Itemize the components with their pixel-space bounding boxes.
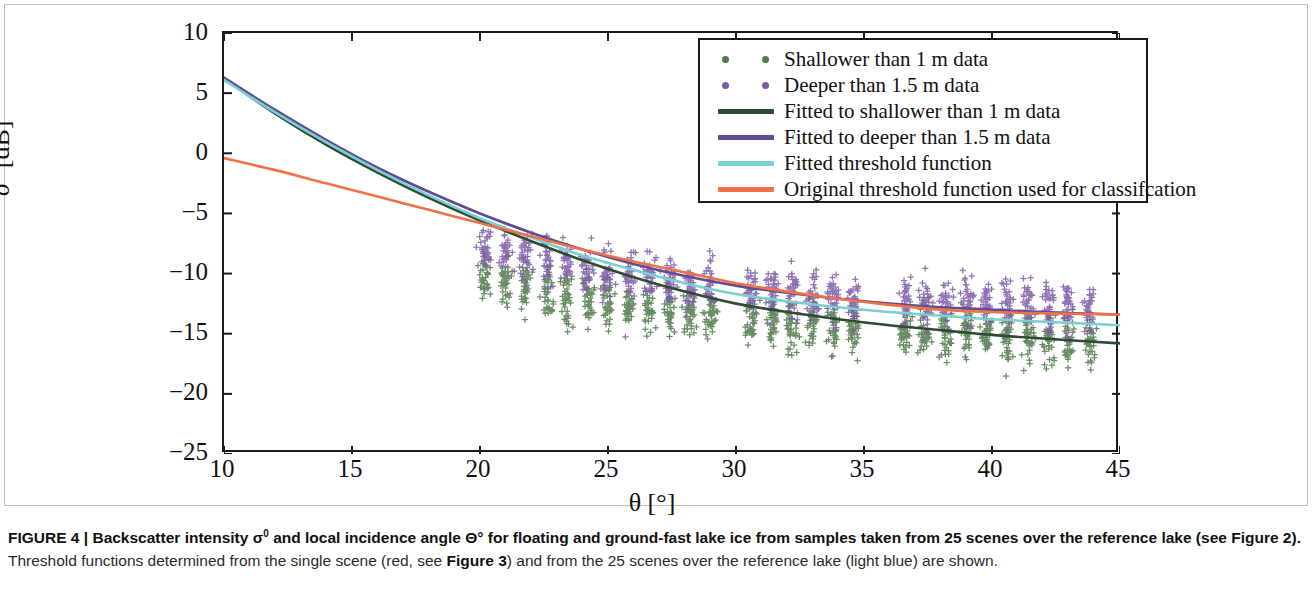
legend-item-shallow-data: Shallower than 1 m data (700, 46, 1146, 72)
x-tick-label-30: 30 (704, 456, 764, 481)
legend-item-deep-data: Deeper than 1.5 m data (700, 72, 1146, 98)
y-tick-label-m5: −5 (152, 199, 208, 224)
legend-marker-fitted-threshold-line (710, 153, 784, 173)
legend-item-fitted-threshold: Fitted threshold function (700, 150, 1146, 176)
y-tick-label-5: 5 (152, 79, 208, 104)
caption-body-1: Threshold functions determined from the … (8, 552, 447, 569)
y-tick-label-m10: −10 (152, 259, 208, 284)
y-tick-label-10: 10 (152, 19, 208, 44)
y-axis-label-sigma: σ (0, 183, 15, 196)
y-axis-label: σ0 [dB] (0, 121, 16, 197)
x-tick-label-15: 15 (320, 456, 380, 481)
legend-item-fit-deep: Fitted to deeper than 1.5 m data (700, 124, 1146, 150)
caption-lead: FIGURE 4 | Backscatter intensity σ (8, 529, 263, 546)
x-tick-label-20: 20 (448, 456, 508, 481)
caption-lead-continued: and local incidence angle Θ° for floatin… (269, 529, 1301, 546)
figure-caption: FIGURE 4 | Backscatter intensity σ0 and … (8, 522, 1306, 572)
legend-marker-fit-deep-line (710, 127, 784, 147)
legend-marker-original-threshold-line (710, 179, 784, 199)
y-tick-label-0: 0 (152, 139, 208, 164)
x-tick-label-25: 25 (576, 456, 636, 481)
legend-item-fit-shallow: Fitted to shallower than 1 m data (700, 98, 1146, 124)
legend-label-original-threshold: Original threshold function used for cla… (784, 179, 1196, 200)
caption-figure3-reference: Figure 3 (447, 552, 507, 569)
caption-body-2: ) and from the 25 scenes over the refere… (507, 552, 998, 569)
legend-item-original-threshold: Original threshold function used for cla… (700, 176, 1146, 202)
legend-marker-deep-dots (710, 75, 784, 95)
y-tick-label-m15: −15 (152, 319, 208, 344)
figure-root: σ0 [dB] 10 5 0 −5 −10 −15 −20 −25 10 15 … (0, 0, 1314, 616)
legend-label-shallow-data: Shallower than 1 m data (784, 49, 988, 70)
legend-marker-shallow-dots (710, 49, 784, 69)
legend-label-deep-data: Deeper than 1.5 m data (784, 75, 979, 96)
y-axis-label-superscript: 0 (0, 175, 3, 184)
x-axis-label: θ [°] (0, 488, 1304, 518)
legend-label-fit-shallow: Fitted to shallower than 1 m data (784, 101, 1060, 122)
chart-legend: Shallower than 1 m data Deeper than 1.5 … (698, 38, 1148, 203)
x-tick-label-10: 10 (192, 456, 252, 481)
x-tick-label-35: 35 (832, 456, 892, 481)
x-tick-label-45: 45 (1088, 456, 1148, 481)
y-axis-label-unit: [dB] (0, 121, 15, 175)
legend-marker-fit-shallow-line (710, 101, 784, 121)
x-tick-label-40: 40 (960, 456, 1020, 481)
y-tick-label-m20: −20 (152, 379, 208, 404)
legend-label-fitted-threshold: Fitted threshold function (784, 153, 992, 174)
legend-label-fit-deep: Fitted to deeper than 1.5 m data (784, 127, 1051, 148)
